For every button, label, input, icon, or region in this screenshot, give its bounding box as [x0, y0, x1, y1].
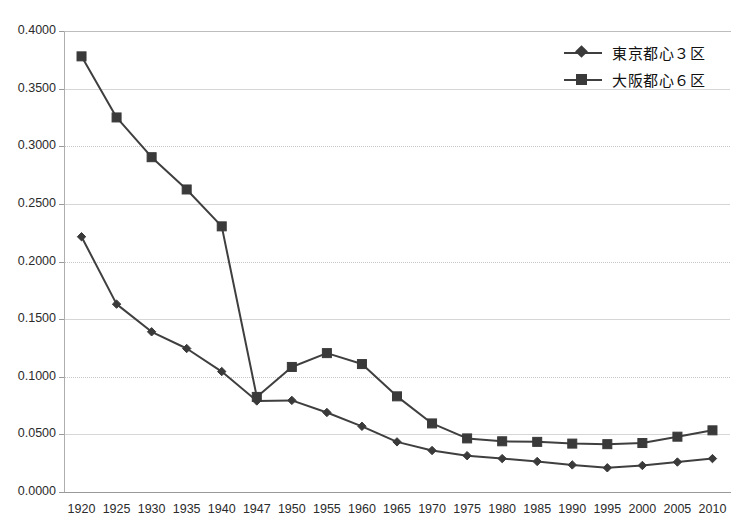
legend-label-osaka: 大阪都心６区	[612, 69, 705, 90]
data-point-square-marker	[112, 113, 121, 122]
data-point-square-marker	[533, 437, 542, 446]
data-point-square-marker	[287, 362, 296, 371]
series-tokyo	[77, 233, 716, 472]
data-point-diamond-marker	[603, 464, 611, 472]
data-point-square-marker	[708, 426, 717, 435]
data-point-square-marker	[568, 439, 577, 448]
data-point-square-marker	[182, 185, 191, 194]
data-point-diamond-marker	[498, 454, 506, 462]
legend-item-tokyo[interactable]: 東京都心３区	[556, 39, 728, 66]
data-point-diamond-marker	[463, 452, 471, 460]
data-point-diamond-marker	[323, 408, 331, 416]
data-point-diamond-marker	[393, 438, 401, 446]
data-point-diamond-marker	[708, 454, 716, 462]
data-point-square-marker	[498, 437, 507, 446]
series-line	[82, 56, 713, 444]
data-point-diamond-marker	[358, 422, 366, 430]
data-point-square-marker	[638, 439, 647, 448]
data-point-diamond-marker	[638, 461, 646, 469]
data-point-diamond-marker	[673, 458, 681, 466]
data-point-square-marker	[357, 360, 366, 369]
data-point-square-marker	[217, 222, 226, 231]
legend-item-osaka[interactable]: 大阪都心６区	[556, 66, 728, 93]
data-point-square-marker	[603, 440, 612, 449]
data-point-square-marker	[393, 392, 402, 401]
chart-legend: 東京都心３区 大阪都心６区	[556, 33, 728, 97]
data-point-square-marker	[252, 392, 261, 401]
series-osaka	[77, 52, 717, 449]
data-point-diamond-marker	[77, 233, 85, 241]
legend-marker-diamond-icon	[562, 44, 604, 62]
data-point-diamond-marker	[568, 461, 576, 469]
legend-marker-square-icon	[562, 71, 604, 89]
data-point-diamond-marker	[288, 396, 296, 404]
data-point-square-marker	[463, 434, 472, 443]
data-point-diamond-marker	[428, 446, 436, 454]
series-line	[82, 237, 713, 468]
data-point-square-marker	[147, 153, 156, 162]
line-chart: 0.00000.05000.10000.15000.20000.25000.30…	[0, 0, 740, 530]
data-point-square-marker	[322, 349, 331, 358]
data-point-square-marker	[77, 52, 86, 61]
data-point-diamond-marker	[533, 457, 541, 465]
data-point-square-marker	[673, 432, 682, 441]
legend-label-tokyo: 東京都心３区	[612, 42, 705, 63]
data-point-square-marker	[428, 419, 437, 428]
